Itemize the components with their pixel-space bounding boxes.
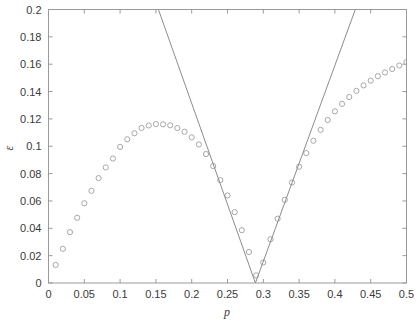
x-tick-label: 0.05: [74, 288, 95, 300]
y-tick-label: 0.14: [20, 86, 41, 98]
y-tick-label: 0: [35, 277, 41, 289]
x-tick-label: 0.2: [184, 288, 199, 300]
x-tick-label: 0.35: [288, 288, 309, 300]
y-tick-label: 0.02: [20, 250, 41, 262]
figure-container: 00.050.10.150.20.250.30.350.40.450.500.0…: [0, 0, 419, 323]
x-tick-label: 0.45: [360, 288, 381, 300]
x-tick-label: 0: [45, 288, 51, 300]
x-axis-title: p: [223, 305, 230, 319]
y-axis-title: ε: [2, 145, 16, 150]
plot-background: [0, 0, 419, 323]
y-tick-label: 0.08: [20, 168, 41, 180]
x-tick-label: 0.5: [399, 288, 414, 300]
y-tick-label: 0.2: [26, 4, 41, 16]
x-tick-label: 0.4: [327, 288, 342, 300]
x-tick-label: 0.3: [256, 288, 271, 300]
y-tick-label: 0.06: [20, 195, 41, 207]
y-tick-label: 0.04: [20, 222, 41, 234]
y-tick-label: 0.1: [26, 140, 41, 152]
y-tick-label: 0.18: [20, 31, 41, 43]
y-tick-label: 0.16: [20, 58, 41, 70]
x-tick-label: 0.25: [217, 288, 238, 300]
y-tick-label: 0.12: [20, 113, 41, 125]
scatter-plot: 00.050.10.150.20.250.30.350.40.450.500.0…: [0, 0, 419, 323]
x-tick-label: 0.1: [112, 288, 127, 300]
x-tick-label: 0.15: [145, 288, 166, 300]
